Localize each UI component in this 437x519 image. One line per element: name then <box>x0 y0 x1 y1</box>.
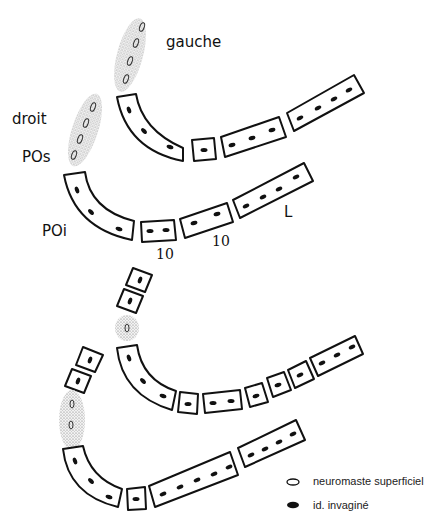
label-droit: droit <box>12 110 47 128</box>
filled-ellipse-icon <box>287 502 299 509</box>
legend-label-invaginated: id. invaginé <box>313 499 369 511</box>
canal-bottom-gauche <box>115 268 363 414</box>
canal-bottom-droit <box>59 347 305 510</box>
lateral-line-diagram: gauche droit POs POi L 10 10 neuromaste … <box>0 0 437 519</box>
canal-gauche <box>117 75 364 161</box>
legend: neuromaste superficiel id. invaginé <box>287 475 424 511</box>
label-pos: POs <box>22 148 51 166</box>
superficial-row-gauche <box>108 15 153 95</box>
label-gauche: gauche <box>166 33 221 51</box>
open-ellipse-icon <box>287 479 299 485</box>
label-poi: POi <box>42 222 67 240</box>
label-ten-b: 10 <box>212 233 230 249</box>
superficial-row-droit <box>61 90 109 170</box>
canal-droit <box>64 163 313 242</box>
label-l: L <box>284 203 293 221</box>
label-ten-a: 10 <box>156 246 174 262</box>
legend-label-superficial: neuromaste superficiel <box>313 475 424 487</box>
